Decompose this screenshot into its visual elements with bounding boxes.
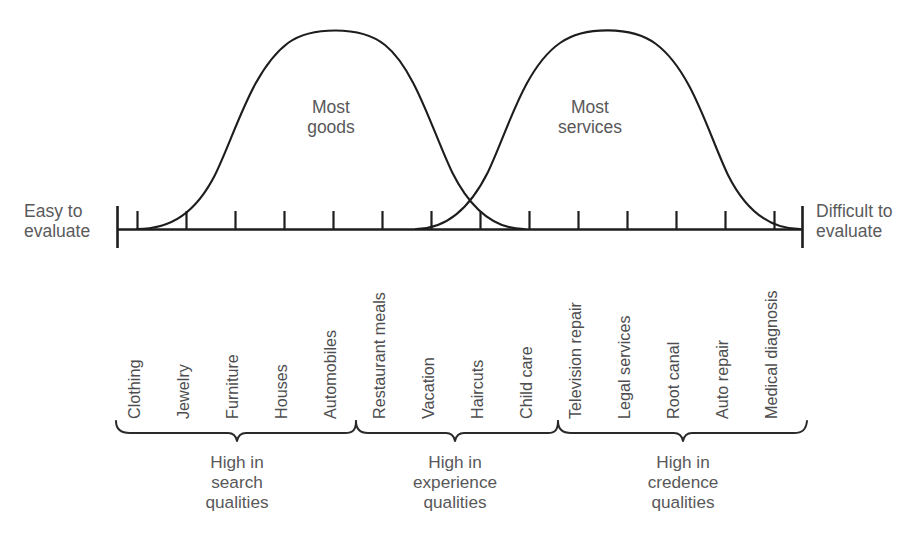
tick-label-houses: Houses — [272, 364, 291, 419]
brace-search — [116, 421, 356, 441]
tick-label-furniture: Furniture — [223, 354, 242, 419]
group-label-experience-line2: experience — [413, 472, 497, 492]
axis-left-anchor-line1: Easy to — [24, 201, 90, 221]
tick-label-legal-services: Legal services — [615, 316, 634, 419]
tick-label-television-repair: Television repair — [566, 302, 585, 419]
brace-experience — [356, 421, 558, 441]
evaluation-continuum-figure: Easy to evaluate Difficult to evaluate M… — [0, 0, 924, 553]
axis-right-anchor-line2: evaluate — [816, 221, 893, 241]
tick-label-automobiles: Automobiles — [321, 330, 340, 419]
most-goods-label-line2: goods — [307, 117, 355, 137]
brace-credence — [558, 421, 807, 441]
group-label-experience-line1: High in — [413, 452, 497, 472]
axis-left-anchor-line2: evaluate — [24, 221, 90, 241]
group-label-experience: High in experience qualities — [413, 452, 497, 512]
most-services-label-line1: Most — [558, 97, 622, 117]
tick-label-root-canal: Root canal — [664, 342, 683, 419]
tick-label-haircuts: Haircuts — [468, 360, 487, 419]
group-label-experience-line3: qualities — [413, 492, 497, 512]
group-label-search-line1: High in — [205, 452, 268, 472]
tick-label-auto-repair: Auto repair — [713, 340, 732, 419]
group-label-search-line2: search — [205, 472, 268, 492]
group-label-credence-line3: qualities — [648, 492, 719, 512]
tick-label-medical-diagnosis: Medical diagnosis — [762, 290, 781, 419]
most-services-label: Most services — [558, 97, 622, 138]
tick-label-child-care: Child care — [517, 346, 536, 419]
most-services-label-line2: services — [558, 117, 622, 137]
tick-label-clothing: Clothing — [125, 360, 144, 419]
tick-label-jewelry: Jewelry — [174, 364, 193, 419]
tick-label-vacation: Vacation — [419, 357, 438, 419]
group-label-credence-line1: High in — [648, 452, 719, 472]
most-goods-label: Most goods — [307, 97, 355, 138]
axis-right-anchor-label: Difficult to evaluate — [816, 201, 893, 242]
tick-label-restaurant-meals: Restaurant meals — [370, 292, 389, 419]
group-label-search: High in search qualities — [205, 452, 268, 512]
most-goods-label-line1: Most — [307, 97, 355, 117]
axis-left-anchor-label: Easy to evaluate — [24, 201, 90, 242]
group-label-credence: High in credence qualities — [648, 452, 719, 512]
group-label-search-line3: qualities — [205, 492, 268, 512]
axis-right-anchor-line1: Difficult to — [816, 201, 893, 221]
group-label-credence-line2: credence — [648, 472, 719, 492]
